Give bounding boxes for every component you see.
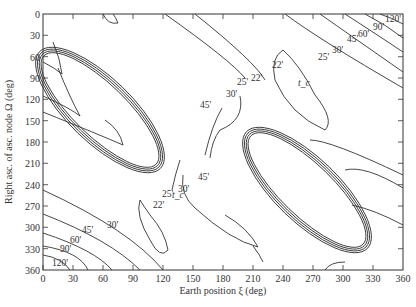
svg-text:300: 300 xyxy=(25,222,40,233)
svg-text:45': 45' xyxy=(198,172,210,182)
svg-text:25': 25' xyxy=(162,189,174,199)
svg-text:330: 330 xyxy=(366,273,381,284)
svg-text:150: 150 xyxy=(186,273,201,284)
x-axis-label: Earth position ξ (deg) xyxy=(180,285,267,297)
svg-text:22': 22' xyxy=(272,60,284,70)
svg-text:0: 0 xyxy=(35,9,40,20)
svg-text:270: 270 xyxy=(25,201,40,212)
svg-text:25': 25' xyxy=(318,52,330,62)
svg-text:60': 60' xyxy=(70,235,82,245)
x-tick-labels: 0 30 60 90 120 150 180 210 240 270 300 3… xyxy=(41,273,411,284)
svg-text:120: 120 xyxy=(156,273,171,284)
svg-text:90: 90 xyxy=(128,273,138,284)
svg-text:120': 120' xyxy=(385,14,401,24)
svg-text:30': 30' xyxy=(226,89,238,99)
svg-text:240: 240 xyxy=(25,180,40,191)
svg-text:30': 30' xyxy=(332,45,344,55)
svg-text:45': 45' xyxy=(347,34,359,44)
svg-text:120': 120' xyxy=(52,258,68,268)
svg-text:360: 360 xyxy=(25,265,40,276)
svg-text:30': 30' xyxy=(178,184,190,194)
svg-text:120: 120 xyxy=(25,94,40,105)
contour-lines xyxy=(17,14,403,271)
svg-text:60': 60' xyxy=(358,29,370,39)
contour-plot: 0 30 60 90 120 150 180 210 240 270 300 3… xyxy=(0,0,416,307)
ellipse-upper-left xyxy=(17,29,182,192)
svg-text:45': 45' xyxy=(82,225,94,235)
svg-text:150: 150 xyxy=(25,116,40,127)
svg-text:t_c: t_c xyxy=(298,78,310,88)
svg-text:30': 30' xyxy=(107,220,119,230)
svg-text:45': 45' xyxy=(200,100,212,110)
svg-text:180: 180 xyxy=(25,137,40,148)
svg-text:22': 22' xyxy=(153,200,165,210)
svg-text:210: 210 xyxy=(25,158,40,169)
svg-text:300: 300 xyxy=(336,273,351,284)
y-axis-label: Right asc. of asc. node Ω (deg) xyxy=(3,80,15,204)
svg-text:30: 30 xyxy=(30,30,40,41)
ellipse-lower-right xyxy=(224,109,389,272)
svg-text:25': 25' xyxy=(237,77,249,87)
svg-text:210: 210 xyxy=(246,273,261,284)
svg-text:90': 90' xyxy=(60,244,72,254)
svg-text:330: 330 xyxy=(25,244,40,255)
svg-text:180: 180 xyxy=(216,273,231,284)
svg-text:240: 240 xyxy=(276,273,291,284)
svg-text:30: 30 xyxy=(68,273,78,284)
svg-text:270: 270 xyxy=(306,273,321,284)
svg-text:22': 22' xyxy=(251,73,263,83)
svg-text:0: 0 xyxy=(41,273,46,284)
svg-text:60: 60 xyxy=(98,273,108,284)
y-tick-labels: 0 30 60 90 120 150 180 210 240 270 300 3… xyxy=(25,9,40,276)
svg-text:90': 90' xyxy=(373,22,385,32)
svg-text:360: 360 xyxy=(396,273,411,284)
contour-labels: 120' 90' 60' 45' 30' 25' 22' t_c 22' 25'… xyxy=(52,14,401,268)
